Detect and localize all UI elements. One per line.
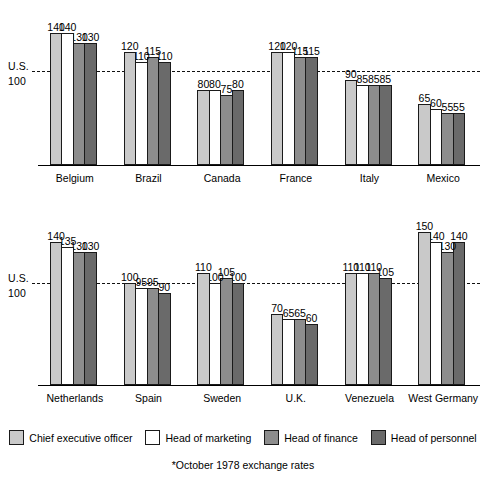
bar[interactable]: 90 [158,293,171,385]
bar[interactable]: 85 [379,85,392,165]
bar[interactable]: 110 [345,273,358,385]
bar[interactable]: 100 [124,283,137,385]
bar-group: 140140130130 [50,8,100,165]
bar-group: 150140130140 [418,208,468,385]
bar[interactable]: 110 [197,273,210,385]
bar-value-label: 60 [306,313,318,324]
bar-value-label: 75 [221,84,233,95]
bar[interactable]: 65 [418,104,431,165]
us-label-line2: 100 [8,75,29,87]
bar-value-label: 110 [195,262,212,273]
bar-group-bars: 65605555 [418,8,468,165]
bar[interactable]: 150 [418,232,431,385]
chart-canvas: U.S. 100 140140130130Belgium120110115110… [0,0,486,479]
bar[interactable]: 140 [50,33,63,165]
bar[interactable]: 95 [147,288,160,385]
bar-group: 110100105100 [197,208,247,385]
bar[interactable]: 110 [356,273,369,385]
bar[interactable]: 115 [147,57,160,165]
baseline-bottom [38,385,480,386]
bar-value-label: 65 [419,93,431,104]
bar-value-label: 55 [453,102,465,113]
bar-group-bars: 110100105100 [197,208,247,385]
bar[interactable]: 130 [73,43,86,165]
bar[interactable]: 140 [430,242,443,385]
bar-group: 110110110105 [345,208,395,385]
bar-value-label: 80 [209,79,221,90]
bar-group: 70656560 [271,208,321,385]
bar[interactable]: 105 [379,278,392,385]
legend-label: Chief executive officer [29,432,132,444]
bar[interactable]: 105 [220,278,233,385]
bar[interactable]: 70 [271,314,284,385]
bar-value-label: 60 [430,98,442,109]
us-label-line1: U.S. [8,272,29,284]
legend-item[interactable]: Head of marketing [145,430,251,445]
legend-label: Head of marketing [165,432,251,444]
bar[interactable]: 65 [282,319,295,385]
category-label: Mexico [427,172,460,184]
bar-value-label: 80 [232,79,244,90]
bar[interactable]: 80 [209,90,222,165]
legend-item[interactable]: Head of finance [264,430,358,445]
bar-group: 80807580 [197,8,247,165]
bar[interactable]: 140 [453,242,466,385]
bar[interactable]: 55 [453,113,466,165]
category-label: Canada [204,172,241,184]
bar-group-bars: 120110115110 [124,8,174,165]
us-reference-label-bottom: U.S. 100 [8,272,29,299]
bar[interactable]: 120 [124,52,137,165]
bar[interactable]: 130 [84,43,97,165]
category-label: West Germany [408,392,478,404]
chart-legend: Chief executive officerHead of marketing… [0,430,486,445]
bar-group-bars: 100959590 [124,208,174,385]
bar[interactable]: 110 [368,273,381,385]
bar[interactable]: 140 [50,242,63,385]
bar[interactable]: 60 [430,109,443,165]
bar-value-label: 85 [379,74,391,85]
bar-group: 100959590 [124,208,174,385]
baseline-top [38,165,480,166]
bar[interactable]: 115 [294,57,307,165]
bar[interactable]: 120 [271,52,284,165]
bar-value-label: 100 [121,272,139,283]
bar[interactable]: 100 [232,283,245,385]
legend-label: Head of finance [284,432,358,444]
category-label: Venezuela [345,392,394,404]
bar-value-label: 150 [416,221,434,232]
bar[interactable]: 140 [61,33,74,165]
category-label: Brazil [135,172,161,184]
legend-item[interactable]: Chief executive officer [9,430,132,445]
bar-group: 65605555 [418,8,468,165]
bar[interactable]: 110 [158,62,171,165]
bar[interactable]: 55 [441,113,454,165]
bar[interactable]: 60 [305,324,318,385]
bar[interactable]: 95 [135,288,148,385]
legend-item[interactable]: Head of personnel [371,430,477,445]
bar[interactable]: 130 [84,252,97,385]
bar-group-bars: 150140130140 [418,208,468,385]
bar-value-label: 85 [356,74,368,85]
bar-group: 140135130130 [50,208,100,385]
bar-value-label: 140 [47,231,65,242]
bar[interactable]: 100 [209,283,222,385]
bar[interactable]: 115 [305,57,318,165]
bar[interactable]: 135 [61,247,74,385]
bar[interactable]: 75 [220,95,233,166]
bar[interactable]: 110 [135,62,148,165]
legend-swatch-icon [145,430,160,445]
bar-group-bars: 80807580 [197,8,247,165]
bar[interactable]: 130 [73,252,86,385]
bar[interactable]: 80 [232,90,245,165]
bar[interactable]: 90 [345,80,358,165]
us-label-line1: U.S. [8,60,29,72]
bar[interactable]: 85 [368,85,381,165]
bar[interactable]: 80 [197,90,210,165]
bar[interactable]: 85 [356,85,369,165]
category-label: Spain [135,392,162,404]
bar[interactable]: 65 [294,319,307,385]
bar-value-label: 80 [198,79,210,90]
legend-swatch-icon [9,430,24,445]
bar[interactable]: 120 [282,52,295,165]
bar[interactable]: 130 [441,252,454,385]
